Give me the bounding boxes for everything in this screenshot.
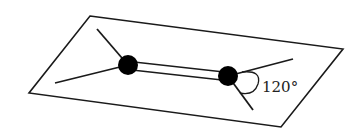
double-bond-line-2 xyxy=(132,70,222,80)
double-bond xyxy=(132,62,224,80)
right-upper-bond xyxy=(228,59,293,76)
planar-molecule-diagram: 120° xyxy=(0,0,359,136)
atoms xyxy=(118,55,238,86)
left-atom xyxy=(118,55,138,75)
right-atom xyxy=(218,66,238,86)
angle-label: 120° xyxy=(262,78,298,96)
substituent-bonds xyxy=(55,29,293,110)
left-lower-bond xyxy=(55,65,128,83)
molecular-plane xyxy=(29,16,343,127)
double-bond-line-1 xyxy=(134,62,224,72)
angle-arc xyxy=(240,72,259,94)
